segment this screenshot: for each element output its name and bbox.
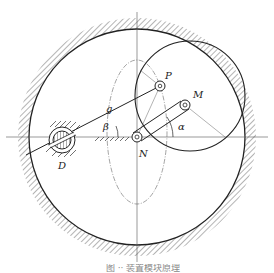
label-D: D [58, 161, 66, 171]
bushing-D [46, 121, 80, 157]
pin-M [180, 100, 190, 110]
figure-caption: 图 ·· 装置模块原理 [78, 264, 208, 273]
mechanism-diagram [0, 0, 274, 273]
pin-P [155, 81, 165, 91]
label-beta: β [103, 122, 109, 132]
label-N: N [139, 149, 148, 159]
ground-hatch [95, 137, 129, 141]
label-P: P [165, 71, 172, 81]
radius-line-1 [137, 86, 160, 137]
radius-line-2 [185, 105, 225, 137]
angle-beta-arc [116, 126, 118, 137]
label-alpha: α [178, 122, 185, 132]
label-M: M [193, 90, 203, 100]
label-g: g [106, 104, 112, 114]
pivot-N [132, 132, 142, 142]
link-g [26, 86, 160, 155]
